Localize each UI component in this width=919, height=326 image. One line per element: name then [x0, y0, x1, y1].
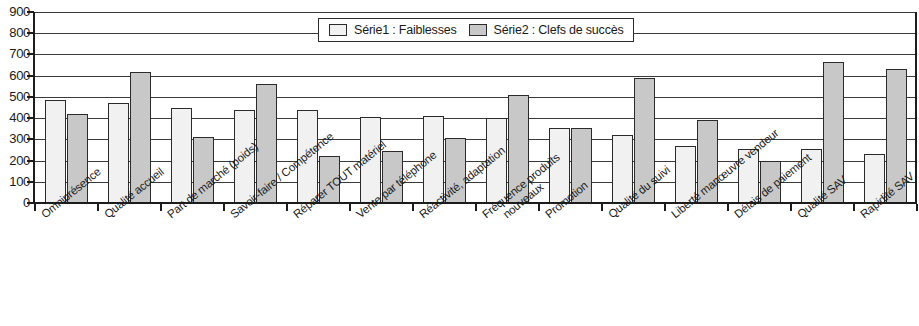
legend-swatch-icon — [329, 24, 347, 36]
legend-entry: Série2 : Clefs de succès — [469, 24, 624, 37]
bar — [171, 108, 192, 204]
bar — [234, 110, 255, 203]
bar — [360, 117, 381, 203]
bar — [486, 118, 507, 203]
y-tick-mark — [27, 96, 34, 98]
legend-entry: Série1 : Faiblesses — [329, 24, 457, 37]
y-tick-mark — [27, 160, 34, 162]
y-tick-label: 200 — [0, 154, 30, 167]
bar — [67, 114, 88, 203]
bar — [130, 72, 151, 203]
y-tick-label: 800 — [0, 26, 30, 39]
bar — [549, 128, 570, 203]
x-tick-mark — [412, 204, 414, 211]
y-tick-label: 600 — [0, 69, 30, 82]
x-tick-mark — [916, 204, 918, 211]
bar — [634, 78, 655, 203]
x-tick-mark — [538, 204, 540, 211]
bar — [864, 154, 885, 203]
bar — [45, 100, 66, 203]
y-tick-label: 700 — [0, 47, 30, 60]
bar-group — [854, 12, 917, 203]
x-tick-mark — [664, 204, 666, 211]
x-tick-mark — [475, 204, 477, 211]
bar-group — [791, 12, 854, 203]
x-tick-mark — [853, 204, 855, 211]
x-tick-mark — [223, 204, 225, 211]
y-axis-labels: 9008007006005004003002001000 — [0, 0, 30, 210]
y-tick-label: 300 — [0, 132, 30, 145]
bar-group — [224, 12, 287, 203]
x-tick-mark — [727, 204, 729, 211]
bar-chart: 9008007006005004003002001000 Omniprésenc… — [0, 0, 919, 326]
bar — [760, 161, 781, 203]
bar — [193, 137, 214, 203]
bar — [382, 151, 403, 203]
bar — [612, 135, 633, 203]
y-tick-label: 100 — [0, 175, 30, 188]
bar-group — [98, 12, 161, 203]
y-tick-label: 900 — [0, 5, 30, 18]
x-tick-mark — [160, 204, 162, 211]
x-tick-mark — [790, 204, 792, 211]
x-tick-mark — [286, 204, 288, 211]
plot-right-border — [915, 12, 917, 204]
bar — [738, 149, 759, 203]
legend-swatch-icon — [469, 24, 487, 36]
bar — [445, 138, 466, 203]
y-tick-mark — [27, 75, 34, 77]
chart-legend: Série1 : FaiblessesSérie2 : Clefs de suc… — [318, 18, 634, 42]
bar-group — [665, 12, 728, 203]
y-tick-mark — [27, 117, 34, 119]
bar — [675, 146, 696, 203]
y-tick-label: 500 — [0, 90, 30, 103]
y-tick-mark — [27, 53, 34, 55]
y-tick-label: 0 — [0, 196, 30, 209]
bar — [108, 103, 129, 203]
legend-label: Série2 : Clefs de succès — [494, 24, 624, 37]
y-tick-mark — [27, 181, 34, 183]
bar-group — [728, 12, 791, 203]
y-tick-mark — [27, 32, 34, 34]
y-tick-mark — [27, 202, 34, 204]
bar — [571, 128, 592, 203]
bar — [423, 116, 444, 203]
legend-label: Série1 : Faiblesses — [354, 24, 457, 37]
y-tick-mark — [27, 138, 34, 140]
x-tick-mark — [34, 204, 36, 211]
y-tick-label: 400 — [0, 111, 30, 124]
bar — [801, 149, 822, 203]
bar — [319, 156, 340, 203]
x-tick-mark — [349, 204, 351, 211]
bar-group — [35, 12, 98, 203]
bar — [823, 62, 844, 203]
x-tick-mark — [97, 204, 99, 211]
y-tick-mark — [27, 11, 34, 13]
x-tick-mark — [601, 204, 603, 211]
bar — [697, 120, 718, 203]
bar — [508, 95, 529, 203]
bar — [886, 69, 907, 203]
bar — [297, 110, 318, 203]
bar-group — [161, 12, 224, 203]
bar — [256, 84, 277, 203]
